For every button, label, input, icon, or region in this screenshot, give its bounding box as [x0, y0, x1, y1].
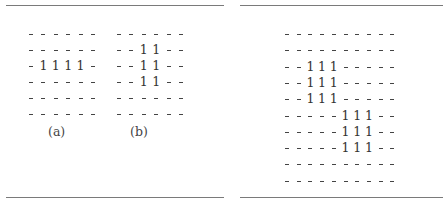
grid-cell-one: 1 — [51, 59, 61, 73]
grid-cell-one: 1 — [352, 109, 362, 123]
grid-cell-one: 1 — [329, 60, 339, 74]
grid-cell-one: 1 — [139, 75, 149, 89]
grid-cell-one: 1 — [329, 92, 339, 106]
caption-b: (b) — [130, 124, 148, 139]
caption-a: (a) — [48, 124, 65, 139]
grid-cell-one: 1 — [341, 125, 351, 139]
grid-cell-one: 1 — [364, 141, 374, 155]
grid-cell-one: 1 — [317, 76, 327, 90]
grid-cell-one: 1 — [151, 59, 161, 73]
grid-cell-one: 1 — [305, 76, 315, 90]
grid-cell-one: 1 — [305, 60, 315, 74]
grid-cell-one: 1 — [352, 125, 362, 139]
grid-cell-one: 1 — [151, 75, 161, 89]
grid-cell-one: 1 — [76, 59, 86, 73]
grid-cell-one: 1 — [364, 109, 374, 123]
grid-cell-one: 1 — [139, 43, 149, 57]
grid-cell-one: 1 — [151, 43, 161, 57]
grid-cell-one: 1 — [364, 125, 374, 139]
grid-cell-one: 1 — [139, 59, 149, 73]
grid-cell-one: 1 — [329, 76, 339, 90]
grid-cell-one: 1 — [352, 141, 362, 155]
grid-cell-one: 1 — [38, 59, 48, 73]
horizontal-rule — [6, 197, 224, 198]
grid-cell-one: 1 — [317, 92, 327, 106]
horizontal-rule — [240, 197, 443, 198]
horizontal-rule — [240, 5, 443, 6]
grid-cell-one: 1 — [305, 92, 315, 106]
horizontal-rule — [6, 5, 224, 6]
grid-cell-one: 1 — [341, 141, 351, 155]
grid-cell-one: 1 — [317, 60, 327, 74]
grid-cell-one: 1 — [63, 59, 73, 73]
grid-cell-one: 1 — [341, 109, 351, 123]
